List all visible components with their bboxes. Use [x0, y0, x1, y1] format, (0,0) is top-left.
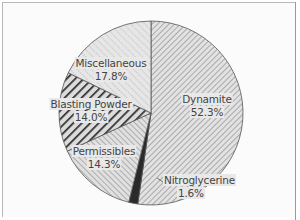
slice-value-blasting-powder: 14.0%: [75, 111, 108, 123]
slice-value-dynamite: 52.3%: [191, 106, 224, 118]
slice-label-permissibles: Permissibles: [73, 145, 136, 157]
slice-label-dynamite: Dynamite: [182, 93, 232, 105]
slice-value-nitroglycerine: 1.6%: [178, 187, 204, 199]
slice-value-permissibles: 14.3%: [88, 158, 121, 170]
slice-label-miscellaneous: Miscellaneous: [75, 57, 146, 69]
slice-label-nitroglycerine: Nitroglycerine: [164, 174, 235, 186]
pie-chart: Dynamite52.3%Nitroglycerine1.6%Permissib…: [0, 0, 300, 220]
slice-value-miscellaneous: 17.8%: [95, 70, 128, 82]
slice-label-blasting-powder: Blasting Powder: [50, 98, 132, 110]
